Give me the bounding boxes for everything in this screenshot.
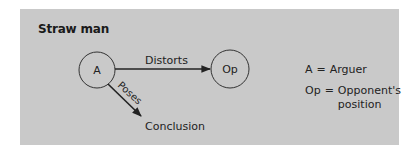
edge-distorts: Distorts [115,54,210,69]
legend-equals: = [317,63,326,77]
legend-item-opponent: Op = Opponent's position [305,84,401,112]
legend-item-arguer: A = Arguer [305,63,401,77]
node-opponent-label: Op [222,63,238,76]
legend-value-wrap: Opponent's position [338,84,401,112]
legend-value: Arguer [330,63,367,77]
edge-poses: Poses [108,79,144,116]
legend-key: Op [305,84,321,112]
legend-value-line2: position [338,98,382,111]
legend-equals: = [325,84,334,112]
legend-key: A [305,63,313,77]
node-arguer: A [79,52,115,88]
node-conclusion-label: Conclusion [145,120,205,133]
node-arguer-label: A [93,64,101,77]
legend: A = Arguer Op = Opponent's position [305,63,401,119]
legend-value: Opponent's [338,84,401,97]
edge-poses-label: Poses [116,79,144,106]
node-opponent: Op [211,50,249,88]
edge-distorts-label: Distorts [145,54,188,67]
